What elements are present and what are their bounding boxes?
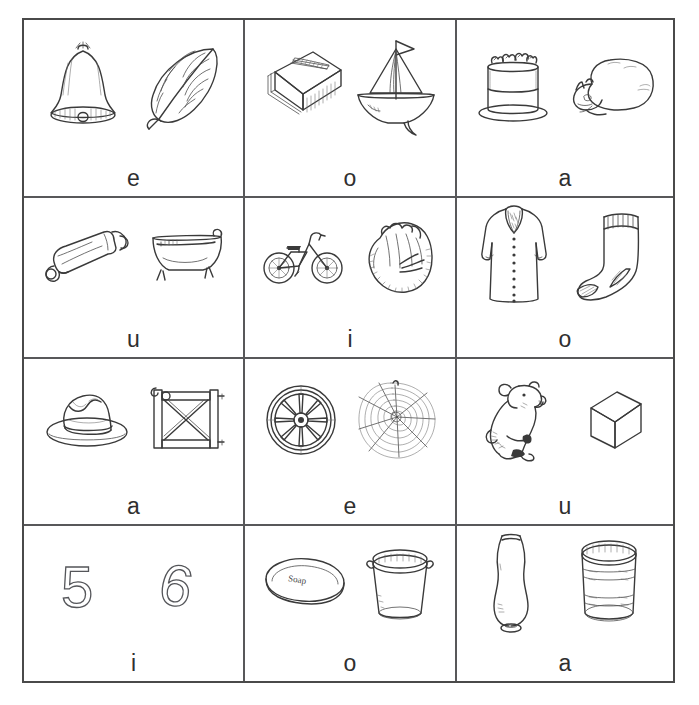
cell-letter: i	[245, 328, 455, 351]
numeral-six-label: 6	[154, 550, 199, 620]
baseball-mitt-icon	[356, 214, 440, 300]
worksheet-cell-wheel-web[interactable]: e	[245, 359, 457, 526]
picture-pair	[245, 198, 455, 316]
cell-letter: e	[24, 167, 243, 190]
numeral-five-label: 5	[61, 554, 93, 619]
bear-cub-icon	[477, 374, 557, 466]
coat-icon	[476, 199, 552, 315]
spiderweb-icon	[351, 377, 441, 463]
picture-pair	[245, 359, 455, 481]
cell-letter: i	[24, 652, 243, 675]
numeral-five-icon: 5	[49, 541, 119, 625]
tin-can-icon	[571, 533, 647, 633]
gate-icon	[144, 382, 228, 458]
cell-letter: a	[24, 495, 243, 518]
cube-icon	[577, 382, 653, 458]
picture-pair	[24, 198, 243, 316]
worksheet-grid: e	[22, 18, 675, 683]
bell-icon	[40, 37, 126, 133]
bathtub-icon	[143, 222, 229, 292]
worksheet-cell-book-boat[interactable]: o	[245, 20, 457, 198]
picture-pair	[457, 20, 673, 150]
soap-label: Soap	[287, 573, 307, 586]
picture-pair	[24, 20, 243, 150]
worksheet-cell-five-six[interactable]: 5 6 i	[24, 526, 245, 681]
hat-icon	[39, 384, 133, 456]
cell-letter: u	[24, 328, 243, 351]
leaf-icon	[137, 37, 227, 133]
cell-letter: e	[245, 495, 455, 518]
cell-letter: u	[457, 495, 673, 518]
picture-pair	[457, 526, 673, 641]
cell-letter: o	[245, 167, 455, 190]
cat-icon	[562, 44, 660, 126]
sock-icon	[570, 207, 654, 307]
numeral-six-icon: 6	[148, 541, 218, 625]
worksheet-cell-bike-mitt[interactable]: i	[245, 198, 457, 359]
book-icon	[257, 44, 345, 126]
worksheet-cell-coat-sock[interactable]: o	[457, 198, 673, 359]
worksheet-cell-cub-cube[interactable]: u	[457, 359, 673, 526]
cell-letter: a	[457, 167, 673, 190]
wagon-wheel-icon	[259, 378, 343, 462]
worksheet-cell-hat-gate[interactable]: a	[24, 359, 245, 526]
worksheet-cell-tube-tub[interactable]: u	[24, 198, 245, 359]
picture-pair	[245, 20, 455, 150]
picture-pair	[24, 359, 243, 481]
picture-pair: 5 6	[24, 526, 243, 641]
cell-letter: a	[457, 652, 673, 675]
worksheet-cell-cake-cat[interactable]: a	[457, 20, 673, 198]
bicycle-icon	[261, 222, 345, 292]
picture-pair: Soap	[245, 526, 455, 641]
picture-pair	[457, 359, 673, 481]
picture-pair	[457, 198, 673, 316]
pot-icon	[357, 539, 443, 627]
soap-bar-icon: Soap	[258, 551, 352, 615]
toothpaste-tube-icon	[38, 222, 134, 292]
cell-letter: o	[245, 652, 455, 675]
worksheet-cell-soap-pot[interactable]: Soap o	[245, 526, 457, 681]
worksheet-cell-vase-can[interactable]: a	[457, 526, 673, 681]
worksheet-cell-bell-leaf[interactable]: e	[24, 20, 245, 198]
sailboat-icon	[348, 33, 444, 137]
cell-letter: o	[457, 328, 673, 351]
vase-icon	[484, 528, 538, 638]
cake-icon	[470, 39, 556, 131]
